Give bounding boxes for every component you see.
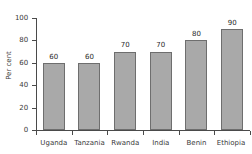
y-axis-tick-label: 0	[6, 127, 28, 134]
bar-value-tanzania: 60	[85, 54, 94, 61]
bar-tanzania[interactable]	[78, 63, 100, 130]
x-axis-label-benin: Benin	[187, 139, 207, 147]
bar-ethiopia[interactable]	[221, 29, 243, 130]
bar-value-india: 70	[156, 42, 165, 49]
bar-group-ethiopia: 90	[214, 18, 250, 130]
bar-group-india: 70	[143, 18, 179, 130]
x-axis-tick	[250, 131, 251, 135]
bar-benin[interactable]	[185, 40, 207, 130]
y-axis-tick-label: 20	[6, 105, 28, 112]
x-axis-label-uganda: Uganda	[40, 139, 67, 147]
bar-group-benin: 80	[179, 18, 215, 130]
bar-value-benin: 80	[192, 31, 201, 38]
x-axis-label-rwanda: Rwanda	[111, 139, 139, 147]
bar-value-rwanda: 70	[121, 42, 130, 49]
x-axis-tick	[107, 131, 108, 135]
y-axis-tick-label: 40	[6, 82, 28, 89]
x-axis-tick	[179, 131, 180, 135]
x-axis-tick	[143, 131, 144, 135]
x-axis-tick	[214, 131, 215, 135]
bar-group-rwanda: 70	[107, 18, 143, 130]
bar-rwanda[interactable]	[114, 52, 136, 130]
y-axis-tick-label: 80	[6, 37, 28, 44]
x-axis-tick	[72, 131, 73, 135]
bar-india[interactable]	[150, 52, 172, 130]
bar-value-uganda: 60	[49, 54, 58, 61]
plot-area: 60 60 70 70 80 90	[36, 18, 250, 130]
x-axis-tick	[36, 131, 37, 135]
bar-group-tanzania: 60	[72, 18, 108, 130]
y-axis-tick-label: 60	[6, 60, 28, 67]
bar-value-ethiopia: 90	[228, 20, 237, 27]
bar-uganda[interactable]	[43, 63, 65, 130]
x-axis-label-ethiopia: Ethiopia	[217, 139, 246, 147]
y-axis-tick-label: 100	[6, 15, 28, 22]
bar-chart: Per cent 100 80 60 40 20 0 60 60 70 70 8	[0, 0, 252, 154]
bar-group-uganda: 60	[36, 18, 72, 130]
x-axis-label-tanzania: Tanzania	[74, 139, 104, 147]
x-axis-label-india: India	[152, 139, 169, 147]
